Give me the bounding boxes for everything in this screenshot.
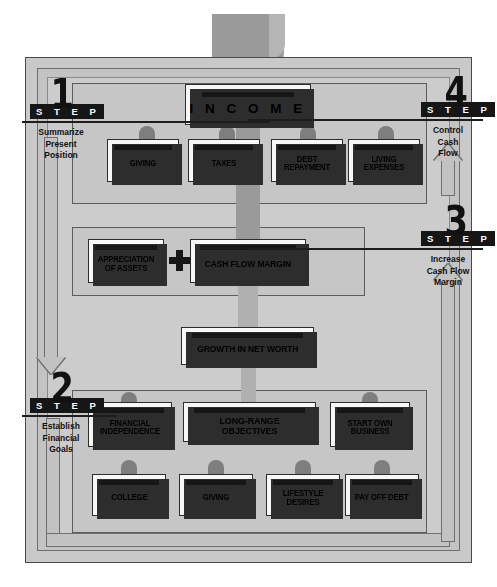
- diagram-canvas: I N C O M E GIVING TAXES DEBT REPAYMENT …: [0, 0, 497, 587]
- node-cash-flow-margin-label: CASH FLOW MARGIN: [202, 260, 294, 269]
- card-slot-bar: [192, 333, 302, 338]
- step-rule: [22, 415, 117, 417]
- node-start-own-business[interactable]: START OWN BUSINESS: [330, 402, 410, 447]
- node-appreciation-of-assets[interactable]: APPRECIATION OF ASSETS: [88, 239, 164, 283]
- node-lifestyle-desires-label: LIFESTYLE DESIRES: [269, 490, 337, 507]
- card-slot-bar: [95, 245, 157, 250]
- card-slot-bar: [337, 408, 403, 413]
- step-caption-3: Increase Cash Flow Margin: [411, 254, 485, 289]
- step-number-4: 4: [444, 74, 466, 110]
- step-rule: [248, 248, 483, 250]
- card-slot-bar: [114, 145, 173, 150]
- node-giving[interactable]: GIVING: [107, 139, 179, 182]
- node-lifestyle-desires[interactable]: LIFESTYLE DESIRES: [266, 474, 340, 516]
- node-financial-independence-label: FINANCIAL INDEPENDENCE: [91, 420, 168, 437]
- step-number-3: 3: [444, 203, 466, 239]
- node-growth-in-net-worth[interactable]: GROWTH IN NET WORTH: [181, 327, 314, 365]
- node-college[interactable]: COLLEGE: [92, 474, 166, 516]
- node-cash-flow-margin[interactable]: CASH FLOW MARGIN: [190, 239, 306, 283]
- node-taxes[interactable]: TAXES: [188, 139, 260, 182]
- node-debt-repayment[interactable]: DEBT REPAYMENT: [271, 139, 343, 182]
- step-caption-4: Control Cash Flow: [411, 125, 485, 160]
- ribbon-growth-to-objectives: [241, 362, 256, 406]
- card-slot-bar: [96, 408, 165, 413]
- step-rule: [22, 121, 270, 123]
- node-pay-off-debt[interactable]: PAY OFF DEBT: [345, 474, 419, 516]
- node-start-own-business-label: START OWN BUSINESS: [333, 420, 406, 437]
- node-debt-repayment-label: DEBT REPAYMENT: [274, 156, 340, 173]
- card-slot-bar: [273, 480, 334, 485]
- card-slot-bar: [352, 480, 413, 485]
- node-giving-label: GIVING: [127, 160, 159, 168]
- node-living-expenses-label: LIVING EXPENSES: [351, 156, 417, 173]
- ribbon-margin-to-growth: [238, 281, 258, 331]
- step-rule: [248, 119, 483, 121]
- return-path-horizontal: [46, 533, 450, 547]
- card-slot-bar: [186, 480, 247, 485]
- arrow-step3-to-step4-shaft: [441, 160, 455, 196]
- card-slot-bar: [99, 480, 160, 485]
- step-caption-1: Summarize Present Position: [24, 127, 98, 162]
- card-slot-bar: [355, 145, 414, 150]
- card-slot-bar: [278, 145, 337, 150]
- node-growth-label: GROWTH IN NET WORTH: [194, 345, 301, 354]
- card-slot-bar: [194, 408, 304, 413]
- node-appreciation-label: APPRECIATION OF ASSETS: [91, 256, 161, 273]
- arrow-to-step3-shaft: [441, 280, 455, 542]
- step-caption-2: Establish Financial Goals: [24, 421, 98, 456]
- arrow-step1-to-step2-shaft: [44, 137, 58, 359]
- node-long-range-objectives[interactable]: LONG-RANGE OBJECTIVES: [183, 402, 316, 442]
- node-giving-goal[interactable]: GIVING: [179, 474, 253, 516]
- node-giving-goal-label: GIVING: [200, 494, 232, 502]
- step-number-1: 1: [50, 76, 72, 112]
- node-long-range-objectives-label: LONG-RANGE OBJECTIVES: [188, 416, 311, 435]
- node-living-expenses[interactable]: LIVING EXPENSES: [348, 139, 420, 182]
- step-number-2: 2: [50, 370, 72, 406]
- plus-icon: [169, 250, 189, 270]
- node-pay-off-debt-label: PAY OFF DEBT: [352, 494, 412, 502]
- card-slot-bar: [202, 92, 294, 97]
- node-college-label: COLLEGE: [108, 494, 150, 502]
- node-income-label: I N C O M E: [187, 102, 310, 116]
- node-taxes-label: TAXES: [209, 160, 239, 168]
- card-slot-bar: [195, 145, 254, 150]
